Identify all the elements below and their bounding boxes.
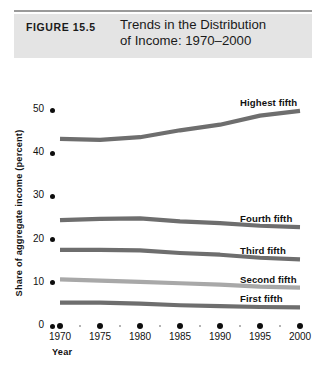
chart-plot-area: Share of aggregate income (percent) 0102…	[0, 58, 326, 375]
figure-title-line-2: of Income: 1970–2000	[120, 33, 308, 49]
figure-title-line-1: Trends in the Distribution	[120, 17, 308, 33]
series-label: First fifth	[240, 293, 283, 304]
header-top-rule	[14, 10, 312, 12]
series-label: Second fifth	[240, 274, 297, 285]
series-label: Highest fifth	[240, 97, 297, 108]
series-label: Fourth fifth	[240, 213, 292, 224]
figure-title: Trends in the Distribution of Income: 19…	[120, 17, 308, 48]
series-line	[60, 111, 300, 140]
figure-number-label: FIGURE 15.5	[26, 21, 96, 33]
figure-container: FIGURE 15.5 Trends in the Distribution o…	[0, 0, 326, 375]
series-label: Third fifth	[240, 245, 286, 256]
